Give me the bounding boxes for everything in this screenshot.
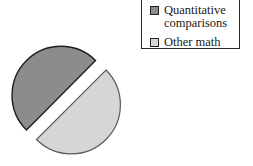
legend-swatch-other-math (150, 38, 159, 47)
legend-item-other-math: Other math (150, 36, 221, 49)
legend-item-quantitative-comparisons: Quantitative comparisons (150, 4, 227, 29)
legend-label: Quantitative comparisons (164, 4, 227, 29)
legend: Quantitative comparisons Other math (141, 0, 240, 49)
legend-swatch-quantitative-comparisons (150, 6, 159, 15)
legend-label: Other math (164, 36, 221, 49)
